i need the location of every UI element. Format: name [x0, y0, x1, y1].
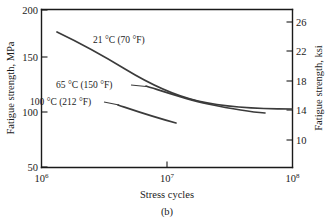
leader-line-100c	[104, 102, 119, 105]
figure-caption: (b)	[161, 206, 174, 218]
y-axis-title: Fatigue strength, MPa	[5, 41, 16, 134]
curve-label-21c: 21 °C (70 °F)	[93, 35, 145, 46]
rtick-label-10: 10	[296, 135, 307, 146]
y2-axis-title: Fatigue strength, ksi	[313, 45, 324, 131]
rtick-label-26: 26	[296, 17, 307, 28]
curve-100c	[118, 105, 176, 123]
fatigue-strength-chart: 200 150 100 50 26 22 18 14 10 1	[0, 0, 333, 219]
xtick-exponent-1e8: 8	[296, 172, 300, 180]
xtick-exponent-1e6: 6	[45, 172, 49, 180]
rtick-label-22: 22	[296, 46, 307, 57]
left-axis-tick-labels: 200 150 100 50	[22, 5, 38, 173]
xtick-base-1e8: 10	[286, 173, 297, 184]
right-axis-tick-labels: 26 22 18 14 10	[296, 17, 307, 146]
curve-label-65c: 65 °C (150 °F)	[56, 80, 112, 91]
xtick-label-1e7: 107	[160, 172, 175, 184]
x-axis-title: Stress cycles	[140, 189, 194, 200]
xtick-exponent-1e7: 7	[171, 172, 175, 180]
ytick-label-200: 200	[22, 5, 38, 16]
bottom-axis-tick-labels: 106 107 108	[35, 172, 301, 184]
curve-labels: 21 °C (70 °F) 65 °C (150 °F) 100 °C (212…	[30, 35, 145, 108]
ytick-label-50: 50	[28, 162, 39, 173]
xtick-base-1e6: 10	[35, 173, 46, 184]
curve-label-100c: 100 °C (212 °F)	[30, 97, 91, 108]
figure-container: 200 150 100 50 26 22 18 14 10 1	[0, 0, 333, 219]
ytick-label-150: 150	[22, 52, 38, 63]
left-axis-ticks	[42, 10, 48, 167]
right-axis-ticks	[287, 22, 293, 140]
xtick-label-1e8: 108	[286, 172, 301, 184]
xtick-base-1e7: 10	[160, 173, 171, 184]
leader-line-65c	[131, 85, 146, 87]
xtick-label-1e6: 106	[35, 172, 50, 184]
rtick-label-14: 14	[296, 105, 307, 116]
data-curves	[57, 32, 292, 123]
rtick-label-18: 18	[296, 76, 307, 87]
ytick-label-100: 100	[22, 107, 38, 118]
